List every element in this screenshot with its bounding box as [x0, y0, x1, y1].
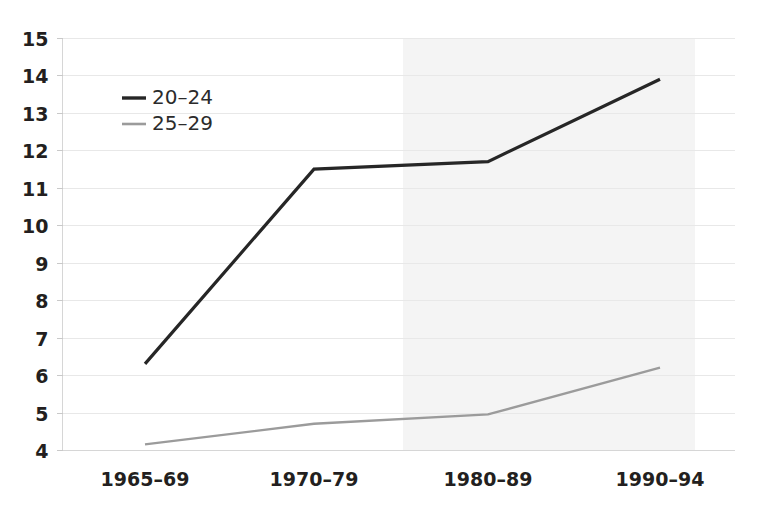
y-axis-tickmarks — [57, 39, 63, 451]
legend-label-2: 25–29 — [152, 111, 213, 135]
x-tick-label: 1980–89 — [444, 468, 533, 490]
shaded-projection-band — [403, 38, 695, 450]
legend-label-1: 20–24 — [152, 85, 213, 109]
x-tick-label: 1990–94 — [616, 468, 705, 490]
y-tick-label: 8 — [35, 290, 48, 312]
y-tick-label: 10 — [22, 215, 48, 237]
y-tick-label: 4 — [35, 440, 48, 462]
x-axis-tick-labels: 1965–691970–791980–891990–94 — [101, 468, 705, 490]
y-tick-label: 14 — [22, 65, 48, 87]
y-tick-label: 13 — [22, 103, 48, 125]
x-tick-label: 1970–79 — [270, 468, 359, 490]
y-axis-tick-labels: 456789101112131415 — [22, 28, 48, 462]
y-tick-label: 12 — [22, 140, 48, 162]
y-tick-label: 5 — [35, 403, 48, 425]
chart-legend: 20–2425–29 — [122, 85, 213, 135]
y-tick-label: 7 — [35, 328, 48, 350]
y-tick-label: 15 — [22, 28, 48, 50]
x-tick-label: 1965–69 — [101, 468, 190, 490]
chart-canvas: 456789101112131415 1965–691970–791980–89… — [0, 0, 768, 511]
y-tick-label: 11 — [22, 178, 48, 200]
y-tick-label: 6 — [35, 365, 48, 387]
y-tick-label: 9 — [35, 253, 48, 275]
line-chart-figure: 456789101112131415 1965–691970–791980–89… — [0, 0, 768, 511]
